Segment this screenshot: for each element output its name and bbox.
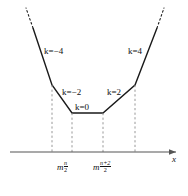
tick-label-m-n-plus-2-over-2: m n+2 2 [93, 160, 111, 174]
slope-label-k-pos-2: k=2 [107, 88, 121, 97]
piecewise-function-figure: k=−4 k=−2 k=0 k=2 k=4 m n 2 m n+2 2 x [0, 0, 188, 196]
slope-label-k-neg-2: k=−2 [62, 88, 81, 97]
slope-label-k-zero: k=0 [75, 103, 89, 112]
tick-sub-denominator: 2 [100, 167, 112, 173]
slope-label-k-neg-4: k=−4 [44, 47, 63, 56]
tick-sub-denominator: 2 [64, 167, 68, 173]
tick-label-m-n-over-2: m n 2 [57, 160, 68, 174]
x-axis-label: x [172, 155, 176, 164]
slope-label-k-pos-4: k=4 [128, 47, 142, 56]
left-continuation-dots [26, 8, 33, 28]
right-continuation-dots [157, 8, 164, 28]
x-axis [10, 149, 176, 155]
